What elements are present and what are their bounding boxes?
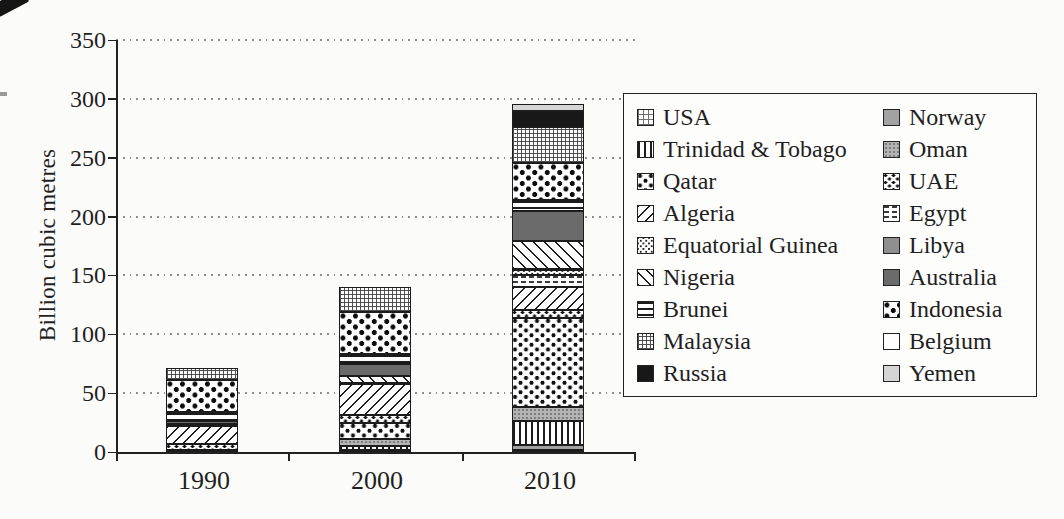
- legend-swatch-norway: [883, 109, 900, 126]
- gridline-350: [116, 39, 637, 41]
- y-tick-label-50: 50: [46, 381, 106, 405]
- bar-segment-2010-russia: [512, 111, 584, 127]
- stacked-bar-1990: [166, 368, 238, 452]
- bar-segment-2010-uae: [512, 310, 584, 318]
- y-tick-200: [108, 216, 116, 218]
- y-tick-100: [108, 334, 116, 336]
- bar-segment-2010-indonesia: [512, 163, 584, 200]
- bar-segment-2010-equatorial-guinea: [512, 270, 584, 276]
- bar-segment-2010-egypt: [512, 275, 584, 286]
- bar-segment-2010-brunei: [512, 200, 584, 211]
- legend: USANorwayTrinidad & TobagoOmanQatarUAEAl…: [623, 93, 1037, 397]
- bar-segment-1990-malaysia: [166, 368, 238, 380]
- bar-segment-1990-libya: [166, 424, 238, 426]
- legend-item-equatorial-guinea: Equatorial Guinea: [637, 230, 883, 260]
- legend-item-usa: USA: [637, 102, 883, 132]
- scan-artifact-dash: [0, 92, 7, 96]
- legend-swatch-usa: [637, 109, 654, 126]
- stacked-bar-2010: [512, 104, 584, 452]
- bar-segment-2000-australia: [339, 364, 411, 376]
- legend-item-indonesia: Indonesia: [883, 294, 1032, 324]
- legend-item-australia: Australia: [883, 262, 1032, 292]
- legend-label-belgium: Belgium: [909, 328, 992, 354]
- legend-label-norway: Norway: [909, 104, 986, 130]
- bar-segment-2010-australia: [512, 211, 584, 241]
- y-tick-0: [108, 452, 116, 454]
- bar-segment-2010-usa: [512, 450, 584, 452]
- chart-figure: Billion cubic metres 0501001502002503003…: [0, 0, 1064, 519]
- legend-swatch-yemen: [883, 365, 900, 382]
- bar-segment-2000-brunei: [339, 354, 411, 364]
- y-tick-label-100: 100: [46, 322, 106, 346]
- legend-swatch-trinidad-tobago: [637, 141, 654, 158]
- legend-item-libya: Libya: [883, 230, 1032, 260]
- legend-swatch-algeria: [637, 205, 654, 222]
- y-axis-line: [116, 40, 118, 452]
- bar-segment-1990-brunei: [166, 412, 238, 421]
- bar-segment-2000-algeria: [339, 384, 411, 415]
- legend-item-russia: Russia: [637, 358, 883, 388]
- legend-swatch-oman: [883, 141, 900, 158]
- legend-swatch-indonesia: [883, 301, 900, 318]
- bar-segment-2000-malaysia: [339, 287, 411, 312]
- legend-label-indonesia: Indonesia: [909, 296, 1002, 322]
- bar-segment-2000-usa: [339, 450, 411, 452]
- bar-segment-1990-australia: [166, 421, 238, 424]
- x-tick-label-1990: 1990: [149, 466, 259, 496]
- bar-segment-2000-uae: [339, 415, 411, 423]
- y-tick-350: [108, 40, 116, 42]
- legend-label-usa: USA: [663, 104, 711, 130]
- legend-swatch-qatar: [637, 173, 654, 190]
- bar-segment-2010-nigeria: [512, 241, 584, 269]
- bar-segment-2010-trinidad-tobago: [512, 421, 584, 445]
- legend-label-australia: Australia: [909, 264, 997, 290]
- bar-segment-2010-malaysia: [512, 127, 584, 163]
- stacked-bar-2000: [339, 287, 411, 452]
- bar-segment-2000-qatar: [339, 423, 411, 439]
- legend-item-belgium: Belgium: [883, 326, 1032, 356]
- legend-item-malaysia: Malaysia: [637, 326, 883, 356]
- x-axis-tick-1: [288, 453, 290, 461]
- legend-label-yemen: Yemen: [909, 360, 976, 386]
- legend-item-trinidad-tobago: Trinidad & Tobago: [637, 134, 883, 164]
- x-axis-tick-2: [462, 453, 464, 461]
- bar-segment-2010-yemen: [512, 104, 584, 110]
- bar-segment-2010-oman: [512, 407, 584, 421]
- legend-label-egypt: Egypt: [909, 200, 966, 226]
- legend-swatch-malaysia: [637, 333, 654, 350]
- y-tick-300: [108, 98, 116, 100]
- legend-item-oman: Oman: [883, 134, 1032, 164]
- bar-segment-2000-oman: [339, 439, 411, 445]
- legend-swatch-belgium: [883, 333, 900, 350]
- bar-segment-1990-indonesia: [166, 380, 238, 412]
- legend-label-malaysia: Malaysia: [663, 328, 751, 354]
- legend-swatch-australia: [883, 269, 900, 286]
- bar-segment-2000-trinidad-tobago: [339, 446, 411, 451]
- y-tick-250: [108, 157, 116, 159]
- bar-segment-2010-norway: [512, 445, 584, 450]
- legend-item-egypt: Egypt: [883, 198, 1032, 228]
- legend-swatch-libya: [883, 237, 900, 254]
- scan-artifact-corner: [0, 0, 29, 17]
- x-tick-label-2010: 2010: [495, 466, 605, 496]
- bar-segment-1990-algeria: [166, 426, 238, 445]
- y-tick-label-0: 0: [46, 440, 106, 464]
- legend-label-equatorial-guinea: Equatorial Guinea: [663, 232, 838, 258]
- legend-swatch-nigeria: [637, 269, 654, 286]
- y-tick-150: [108, 275, 116, 277]
- x-axis-tick-0: [116, 453, 118, 461]
- legend-label-russia: Russia: [663, 360, 727, 386]
- legend-item-uae: UAE: [883, 166, 1032, 196]
- legend-label-trinidad-tobago: Trinidad & Tobago: [663, 136, 847, 162]
- bar-segment-2010-qatar: [512, 318, 584, 407]
- x-axis-line: [116, 452, 636, 454]
- legend-label-libya: Libya: [909, 232, 965, 258]
- y-tick-label-200: 200: [46, 205, 106, 229]
- bar-segment-2000-indonesia: [339, 312, 411, 354]
- gridline-300: [116, 98, 637, 100]
- legend-swatch-equatorial-guinea: [637, 237, 654, 254]
- legend-item-norway: Norway: [883, 102, 1032, 132]
- y-tick-label-300: 300: [46, 87, 106, 111]
- legend-label-brunei: Brunei: [663, 296, 728, 322]
- x-tick-label-2000: 2000: [322, 466, 432, 496]
